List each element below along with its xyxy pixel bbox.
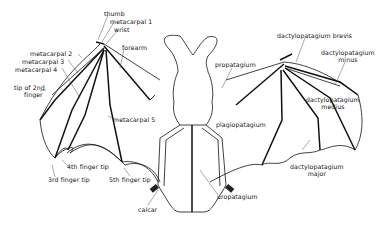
label-dactylopatagium-medius: dactylopatagium medius (306, 96, 360, 110)
label-3rd-finger-tip: 3rd finger tip (48, 176, 90, 183)
label-forearm: forearm (122, 44, 147, 51)
label-metacarpal-3: metacarpal 3 (22, 58, 64, 65)
label-uropatagium: uropatagium (217, 193, 258, 200)
label-dactylopatagium-major: dactylopatagium major (290, 163, 344, 177)
right-leg (206, 125, 226, 192)
label-metacarpal-5: metacarpal 5 (113, 116, 155, 123)
label-propatagium: propatagium (215, 61, 256, 68)
left-foot (150, 184, 159, 193)
right-wing-leading-edge (284, 62, 358, 95)
right-thumb (280, 54, 292, 60)
left-digit-4 (68, 50, 104, 150)
label-thumb: thumb (104, 10, 125, 17)
left-digit-5 (106, 50, 122, 162)
left-forearm-bone (104, 46, 150, 100)
label-dactylopatagium-brevis: dactylopatagium brevis (277, 32, 352, 39)
label-metacarpal-1: metacarpal 1 (110, 18, 152, 25)
bat-anatomy-diagram: thumb metacarpal 1 wrist forearm metacar… (0, 0, 392, 228)
right-digit-4 (283, 70, 320, 150)
left-digit-3 (55, 50, 104, 158)
label-tip-of-2nd-finger: tip of 2nd finger (14, 84, 45, 98)
label-metacarpal-4: metacarpal 4 (15, 66, 57, 73)
right-digit-5 (262, 70, 282, 165)
label-plagiopatagium: plagiopatagium (216, 121, 266, 128)
label-metacarpal-2: metacarpal 2 (30, 50, 72, 57)
bat-head-ears (164, 35, 217, 125)
label-calcar: calcar (138, 206, 157, 213)
label-dactylopatagium-minus: dactylopatagium minus (321, 49, 375, 63)
label-4th-finger-tip: 4th finger tip (67, 163, 109, 170)
right-forearm-bone (236, 64, 284, 105)
label-5th-finger-tip: 5th finger tip (109, 176, 151, 183)
left-thumb (96, 42, 104, 44)
right-foot (225, 184, 234, 193)
label-wrist: wrist (114, 26, 129, 33)
left-leg (158, 125, 180, 192)
right-digit-2 (285, 66, 358, 95)
